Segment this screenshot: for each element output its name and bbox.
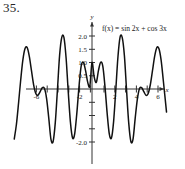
y-tick-label-1-0: 1.0 xyxy=(78,59,87,67)
y-axis xyxy=(90,22,94,164)
y-tick-label-2-0: 2.0 xyxy=(78,33,87,41)
graph-svg: -6 -2 2 4 6 2.0 1.5 1.0 0.5 -2.0 x y f(x… xyxy=(0,0,185,169)
x-tick-labels: -6 -2 2 4 6 xyxy=(33,93,160,101)
y-axis-label: y xyxy=(89,13,94,21)
x-tick-label-6: 6 xyxy=(156,93,160,101)
plot-area: -6 -2 2 4 6 2.0 1.5 1.0 0.5 -2.0 x y f(x… xyxy=(0,0,185,169)
function-label: f(x) = sin 2x + cos 3x xyxy=(102,24,167,33)
figure-container: 35. xyxy=(0,0,185,169)
y-tick-label--2-0: -2.0 xyxy=(76,139,88,147)
y-axis-arrow-icon xyxy=(90,22,94,27)
y-tick-label-1-5: 1.5 xyxy=(78,46,87,54)
